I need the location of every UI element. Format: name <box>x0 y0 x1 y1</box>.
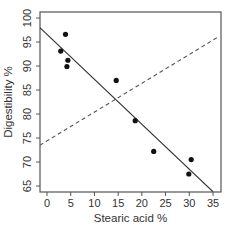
data-point <box>64 64 69 69</box>
y-tick-label: 85 <box>21 84 33 96</box>
y-tick-label: 75 <box>21 132 33 144</box>
x-tick-label: 35 <box>207 197 219 209</box>
data-point <box>65 58 70 63</box>
data-point <box>58 49 63 54</box>
y-tick-label: 65 <box>21 180 33 192</box>
x-tick-label: 15 <box>112 197 124 209</box>
x-axis-label: Stearic acid % <box>94 212 168 224</box>
x-tick-label: 0 <box>44 197 50 209</box>
x-tick-label: 20 <box>136 197 148 209</box>
y-tick-label: 70 <box>21 156 33 168</box>
y-axis-label: Digestibility % <box>2 66 14 138</box>
x-tick-label: 30 <box>183 197 195 209</box>
solid-regression-line <box>40 28 213 192</box>
plot-frame <box>40 12 221 192</box>
data-point <box>186 171 191 176</box>
data-point <box>151 149 156 154</box>
data-point <box>63 32 68 37</box>
data-point <box>189 157 194 162</box>
y-tick-label: 80 <box>21 108 33 120</box>
y-tick-label: 90 <box>21 60 33 72</box>
data-point <box>114 78 119 83</box>
x-tick-label: 25 <box>159 197 171 209</box>
y-tick-label: 100 <box>21 9 33 27</box>
scatter-chart: 6570758085909510005101520253035Stearic a… <box>0 0 233 226</box>
data-point <box>133 118 138 123</box>
x-tick-label: 10 <box>88 197 100 209</box>
x-tick-label: 5 <box>68 197 74 209</box>
y-tick-label: 95 <box>21 36 33 48</box>
